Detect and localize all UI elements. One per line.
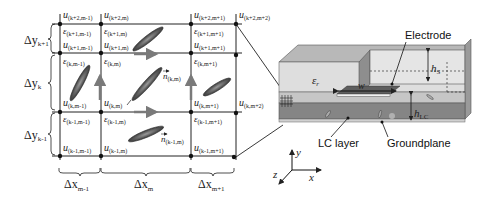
groundplane-label: Groundplane — [387, 137, 451, 149]
right-side-face — [465, 39, 471, 119]
coordinate-axes: y x z — [272, 146, 321, 184]
dy-k1-label: Δyk+1 — [24, 33, 49, 48]
highlight-spot — [389, 113, 395, 119]
eps-k-1-m: ε(k-1,m) — [104, 114, 126, 126]
u-k2-m+1: u(k+2,m+1) — [194, 9, 225, 22]
u-k-1-m-1: u(k-1,m-1) — [63, 142, 91, 155]
brace-y-k1 — [48, 24, 55, 53]
fdtd-grid: u(k+2,m-1) u(k+2,m) u(k+2,m+1) u(k+2,m+2… — [24, 9, 292, 193]
z-axis-arrow — [279, 170, 292, 184]
z-axis-label: z — [272, 168, 278, 180]
brace-x-m — [101, 168, 190, 176]
groundplane-leader — [382, 122, 388, 137]
zoom-line-bottom — [236, 125, 283, 157]
dx-m-label: Δxm — [134, 177, 154, 193]
groundplane-dot — [381, 121, 384, 124]
lc-director-k-m+1 — [202, 76, 233, 99]
director-label-k-m: n(k,m) — [163, 71, 181, 83]
director-label-k-1-m: n(k-1,m) — [161, 134, 184, 146]
u-k2-m-1: u(k+2,m-1) — [63, 9, 93, 22]
lc-layer-dot — [347, 117, 350, 120]
electrode-edge — [337, 94, 390, 97]
eps-k1-m+1: ε(k+1,m+1) — [194, 26, 223, 38]
dy-k-1-label: Δyk-1 — [24, 128, 48, 143]
eps-k-1-m+1: ε(k-1,m+1) — [194, 114, 222, 126]
electrode — [337, 86, 400, 94]
lc-layer-label: LC layer — [318, 137, 359, 149]
u-k-1-m: u(k-1,m) — [104, 142, 127, 155]
u-k1-m: u(k+1,m) — [104, 39, 129, 52]
width-label: w — [358, 80, 365, 91]
x-axis-label: x — [308, 171, 314, 183]
u-k2-m: u(k+2,m) — [104, 9, 129, 22]
brace-y-k — [48, 55, 55, 110]
u-k2-m+2: u(k+2,m+2) — [239, 9, 270, 22]
dx-m-1-label: Δxm-1 — [64, 177, 89, 193]
brace-y-k-1 — [48, 113, 55, 155]
groundplane — [279, 119, 465, 122]
lc-layer — [279, 103, 465, 119]
u-k-m: u(k,m) — [104, 97, 122, 110]
u-k1-m+1: u(k+1,m+1) — [194, 39, 225, 52]
electrode-dot — [391, 83, 394, 86]
dx-m+1-label: Δxm+1 — [198, 177, 225, 193]
cover-block-front — [370, 50, 465, 84]
brace-x-m-1 — [59, 168, 100, 176]
eps-k1-m: ε(k+1,m) — [104, 26, 127, 38]
u-k1-m-1: u(k+1,m-1) — [63, 39, 93, 52]
y-axis-label: y — [295, 146, 301, 158]
electrode-label: Electrode — [405, 29, 451, 41]
lc-director-k-1-m — [127, 124, 165, 145]
dy-k-label: Δyk — [24, 76, 42, 91]
eps-k-m-1: ε(k,m-1) — [63, 56, 85, 68]
u-k-m-1: u(k,m-1) — [63, 97, 86, 110]
lc-fdtd-diagram: u(k+2,m-1) u(k+2,m) u(k+2,m+1) u(k+2,m+2… — [0, 0, 489, 197]
lc-director-k1-m — [131, 25, 165, 54]
eps-k-m: ε(k,m) — [104, 56, 121, 68]
lc-device-3d: εr w hS hLC Electrode LC layer Groundpla… — [272, 29, 471, 184]
director-leader — [127, 100, 131, 105]
eps-k-m+1: ε(k,m+1) — [194, 56, 217, 68]
brace-x-m+1 — [191, 168, 234, 176]
u-k-m+1: u(k,m+1) — [194, 97, 219, 110]
u-k-m+2: u(k,m+2) — [239, 97, 264, 110]
eps-k1-m-1: ε(k+1,m-1) — [63, 26, 91, 38]
eps-k-1-m-1: ε(k-1,m-1) — [63, 114, 90, 126]
u-k-1-m+1: u(k-1,m+1) — [194, 142, 224, 155]
lc-director-k-m — [130, 65, 165, 102]
lc-director-k-m-1 — [68, 64, 93, 103]
